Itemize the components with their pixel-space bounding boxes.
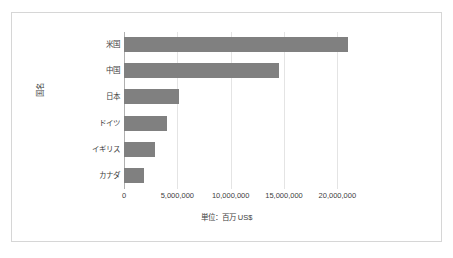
bar-row: [124, 137, 364, 163]
x-axis-tick-labels: 05,000,00010,000,00015,000,00020,000,000: [124, 191, 364, 205]
bar-row: [124, 111, 364, 137]
bar-row: [124, 58, 364, 84]
chart-frame: 国名 米国中国日本ドイツイギリスカナダ 05,000,00010,000,000…: [11, 12, 442, 242]
bar-米国[interactable]: [124, 37, 348, 52]
y-axis-tick-label: 日本: [60, 84, 120, 110]
x-axis-tick-label: 20,000,000: [319, 191, 357, 200]
y-axis-tick-label: ドイツ: [60, 111, 120, 137]
bar-カナダ[interactable]: [124, 168, 144, 183]
y-axis-tick-label: 中国: [60, 58, 120, 84]
bar-日本[interactable]: [124, 89, 179, 104]
plot-area: [124, 32, 364, 189]
y-axis-tick-label: イギリス: [60, 137, 120, 163]
bar-row: [124, 163, 364, 189]
x-axis-title: 単位：百万 US$: [12, 211, 441, 222]
x-axis-tick-label: 15,000,000: [265, 191, 303, 200]
bar-中国[interactable]: [124, 63, 279, 78]
x-axis-tick-label: 0: [122, 191, 126, 200]
bar-row: [124, 84, 364, 110]
y-axis-title: 国名: [34, 83, 45, 97]
bar-row: [124, 32, 364, 58]
y-axis-tick-label: 米国: [60, 32, 120, 58]
x-axis-tick-label: 5,000,000: [161, 191, 194, 200]
bar-イギリス[interactable]: [124, 142, 155, 157]
bar-ドイツ[interactable]: [124, 116, 167, 131]
x-axis-tick-label: 10,000,000: [212, 191, 250, 200]
y-axis-tick-label: カナダ: [60, 163, 120, 189]
y-axis-tick-labels: 米国中国日本ドイツイギリスカナダ: [56, 32, 120, 189]
